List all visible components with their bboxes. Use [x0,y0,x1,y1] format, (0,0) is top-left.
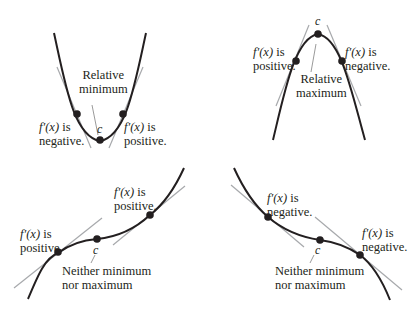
left-label: f′(x) is negative. [267,191,312,219]
label-sign: negative. [345,59,390,73]
left-label: f′(x) is positive. [20,227,63,255]
label-sign: positive. [20,241,63,255]
left-label: f′(x) is negative. [39,120,84,148]
label-sign: positive. [114,199,157,213]
center-label-line2: maximum [296,86,347,100]
center-label-line1: Neither minimum [275,264,364,278]
label-suffix: is [144,120,155,134]
label-suffix: is [59,120,70,134]
derivative-symbol: f′(x) [267,191,287,205]
label-sign: positive. [253,59,296,73]
center-label-line1: Relative [79,68,128,82]
right-label: f′(x) is positive. [114,185,157,213]
leader-line [310,255,314,263]
derivative-symbol: f′(x) [124,120,144,134]
point-c [93,235,101,243]
right-label: f′(x) is negative. [345,45,390,73]
center-label-line1: Relative [296,72,347,86]
center-label-line2: nor maximum [62,278,151,292]
point-c [314,30,322,38]
center-label: Neither minimum nor maximum [275,264,364,292]
point-c-label: c [315,14,320,29]
center-label: Relative maximum [296,72,347,100]
center-label: Neither minimum nor maximum [62,264,151,292]
right-label: f′(x) is negative. [362,226,407,254]
derivative-symbol: f′(x) [114,185,134,199]
center-label-line2: nor maximum [275,278,364,292]
center-label-line1: Neither minimum [62,264,151,278]
label-suffix: is [365,45,376,59]
derivative-symbol: f′(x) [362,226,382,240]
label-sign: positive. [124,134,167,148]
label-suffix: is [273,45,284,59]
center-label-line2: minimum [79,82,128,96]
derivative-symbol: f′(x) [39,120,59,134]
point-c-label: c [315,243,320,258]
label-suffix: is [287,191,298,205]
label-sign: negative. [39,134,84,148]
label-suffix: is [134,185,145,199]
point-right [119,110,127,118]
label-sign: negative. [267,205,312,219]
derivative-symbol: f′(x) [345,45,365,59]
point-c-label: c [97,122,102,137]
right-label: f′(x) is positive. [124,120,167,148]
label-suffix: is [40,227,51,241]
label-sign: negative. [362,240,407,254]
point-c [96,136,104,144]
left-label: f′(x) is positive. [253,45,296,73]
leader-line [311,44,316,72]
derivative-symbol: f′(x) [253,45,273,59]
point-left [73,110,81,118]
center-label: Relative minimum [79,68,128,96]
point-c-label: c [93,243,98,258]
label-suffix: is [382,226,393,240]
derivative-symbol: f′(x) [20,227,40,241]
